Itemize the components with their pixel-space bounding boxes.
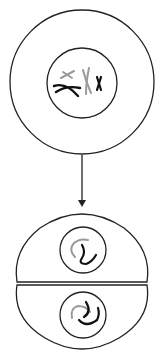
chromosome-black-small	[97, 77, 101, 90]
parent-cell-membrane	[10, 10, 154, 154]
daughter-cells	[16, 214, 148, 349]
chromosome-gray-tall	[83, 68, 91, 94]
daughter-chromosomes-top	[71, 239, 96, 264]
cell-division-diagram	[0, 0, 168, 359]
parent-cell	[10, 10, 154, 154]
chromosome-black-large	[54, 85, 80, 96]
parent-chromosomes	[54, 68, 101, 96]
daughter-chromosomes-bottom	[72, 302, 99, 324]
division-arrow	[78, 155, 86, 207]
chromosome-gray-small	[61, 71, 74, 78]
daughter-cell-top	[16, 214, 148, 282]
daughter-cell-bottom	[16, 285, 147, 349]
parent-nucleus	[47, 48, 117, 118]
